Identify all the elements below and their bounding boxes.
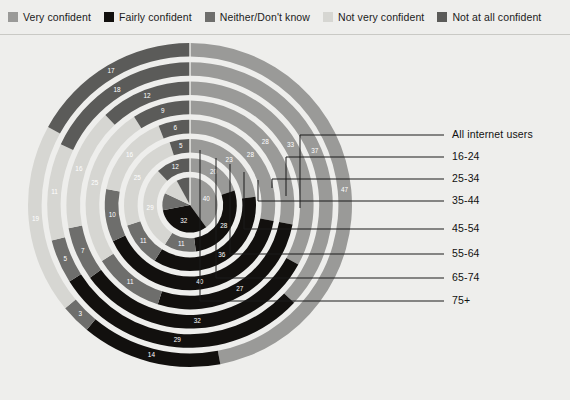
segment-neither[interactable] — [105, 189, 125, 241]
legend-item-fairly[interactable]: Fairly confident — [104, 11, 192, 23]
legend-swatch-very-icon — [8, 12, 18, 22]
chart-svg: 4714319173729511183332716122827112592840… — [0, 35, 570, 400]
legend-label: Fairly confident — [119, 11, 192, 23]
legend-item-notatall[interactable]: Not at all confident — [437, 11, 541, 23]
legend-swatch-neither-icon — [205, 12, 215, 22]
legend-item-very[interactable]: Very confident — [8, 11, 91, 23]
legend-label: Very confident — [23, 11, 91, 23]
legend-label: Not at all confident — [452, 11, 541, 23]
radial-stacked-chart: 4714319173729511183332716122827112592840… — [0, 35, 570, 400]
legend-item-neither[interactable]: Neither/Don't know — [205, 11, 310, 23]
legend-swatch-notatall-icon — [437, 12, 447, 22]
ring-start-seam — [189, 42, 190, 205]
segment-notatall[interactable] — [159, 120, 190, 139]
chart-legend: Very confidentFairly confidentNeither/Do… — [0, 0, 570, 34]
legend-label: Not very confident — [338, 11, 424, 23]
legend-label: Neither/Don't know — [220, 11, 310, 23]
legend-swatch-fairly-icon — [104, 12, 114, 22]
legend-swatch-notvery-icon — [323, 12, 333, 22]
legend-item-notvery[interactable]: Not very confident — [323, 11, 424, 23]
chart-page: Very confidentFairly confidentNeither/Do… — [0, 0, 570, 400]
